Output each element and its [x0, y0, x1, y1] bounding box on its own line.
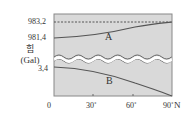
x-tick-label-30: 30˚ [86, 101, 97, 110]
y-axis-label-line1: 힘 [18, 44, 42, 55]
x-tick-label-0: 0 [47, 101, 51, 110]
curve-b-label: B [106, 75, 113, 86]
x-axis-unit: N [174, 100, 181, 110]
plot-area [54, 14, 172, 96]
curve-a-label: A [105, 31, 112, 42]
x-tick-label-60: 60˚ [126, 101, 137, 110]
y-tick-983-2: 983,2 [28, 17, 46, 26]
x-tick-label-90: 90˚ [163, 101, 174, 110]
y-axis-label: 힘 (Gal) [18, 44, 42, 66]
y-tick-981-4: 981,4 [28, 33, 46, 42]
y-tick-3-4: 3,4 [38, 64, 48, 73]
